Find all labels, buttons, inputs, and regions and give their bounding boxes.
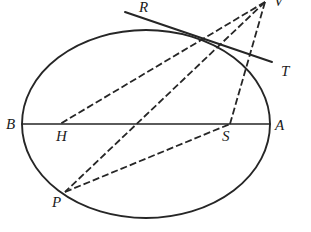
point-label-v: V <box>274 0 283 9</box>
point-label-t: T <box>281 64 289 79</box>
point-label-p: P <box>52 195 61 210</box>
dashed-line-p-to-s <box>65 124 230 192</box>
dashed-line-v-to-h <box>60 2 265 124</box>
point-label-s: S <box>222 129 230 144</box>
geometry-figure <box>0 0 311 232</box>
point-label-b: B <box>6 117 15 132</box>
point-label-h: H <box>56 129 67 144</box>
point-label-r: R <box>139 0 148 15</box>
point-label-a: A <box>275 118 284 133</box>
diagram-page: B A H S P R T V <box>0 0 311 232</box>
